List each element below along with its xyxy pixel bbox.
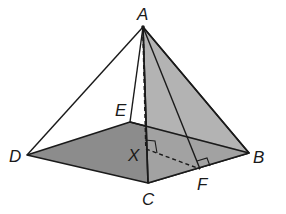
- label-f: F: [197, 175, 209, 194]
- pyramid-diagram: A B C D E F X: [0, 0, 286, 214]
- label-b: B: [253, 148, 264, 167]
- label-e: E: [115, 101, 127, 120]
- label-a: A: [136, 5, 148, 24]
- label-d: D: [9, 147, 21, 166]
- edge-ae: [130, 27, 143, 122]
- apex-dot: [141, 25, 145, 29]
- label-c: C: [142, 190, 155, 209]
- label-x: X: [127, 146, 140, 165]
